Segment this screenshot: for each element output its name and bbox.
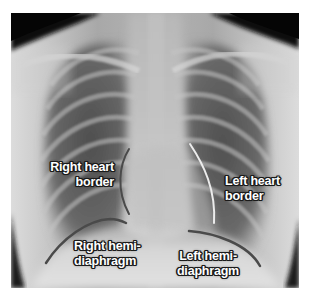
label-right-heart-border-line1: Right heart [44, 160, 114, 175]
label-left-heart-border-line1: Left heart [225, 174, 295, 189]
label-right-heart-border-line2: border [44, 175, 114, 190]
label-left-heart-border-line2: border [225, 189, 295, 204]
label-right-hemidiaphragm-line2: diaphragm [74, 254, 148, 269]
chest-xray-image [11, 13, 299, 288]
label-right-hemidiaphragm: Right hemi- diaphragm [74, 239, 148, 269]
label-right-hemidiaphragm-line1: Right hemi- [74, 239, 148, 254]
label-left-hemidiaphragm-line1: Left hemi- [173, 249, 243, 264]
label-left-heart-border: Left heart border [225, 174, 295, 204]
label-left-hemidiaphragm-line2: diaphragm [173, 264, 243, 279]
xray-rendering [11, 13, 299, 288]
label-right-heart-border: Right heart border [44, 160, 114, 190]
label-left-hemidiaphragm: Left hemi- diaphragm [173, 249, 243, 279]
